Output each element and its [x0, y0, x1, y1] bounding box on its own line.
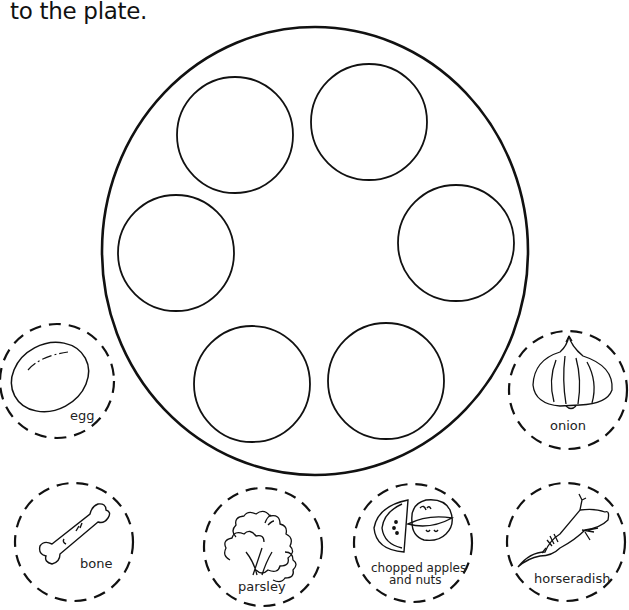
cutout-label: parsley [238, 579, 286, 594]
cutout-chopped-apples-and-nuts[interactable]: chopped apples and nuts [354, 484, 472, 602]
cutout-label-line2: and nuts [389, 573, 442, 587]
cutout-label: horseradish [534, 571, 611, 586]
cutout-parsley[interactable]: parsley [204, 488, 322, 606]
cutout-egg[interactable]: egg [0, 324, 114, 438]
dashed-cut-line [0, 324, 114, 438]
cutout-label: egg [70, 408, 95, 423]
cutout-onion[interactable]: onion [509, 331, 627, 449]
plate-slot-top-left[interactable] [177, 77, 293, 193]
plate-slot-left[interactable] [118, 195, 234, 311]
cutout-label: onion [550, 418, 586, 433]
plate-slot-bottom-left[interactable] [194, 326, 310, 442]
plate-slot-top-right[interactable] [311, 64, 427, 180]
plate-slot-bottom-right[interactable] [328, 323, 444, 439]
seder-plate [102, 27, 528, 475]
cutout-label: bone [80, 556, 112, 571]
apples-nuts-icon [374, 500, 452, 552]
bone-icon [40, 504, 110, 564]
cutout-bone[interactable]: bone [15, 483, 133, 601]
cutout-horseradish[interactable]: horseradish [507, 483, 625, 601]
horseradish-icon [518, 494, 609, 567]
onion-icon [533, 336, 612, 409]
plate-slot-right[interactable] [398, 185, 514, 301]
parsley-icon [225, 511, 296, 581]
